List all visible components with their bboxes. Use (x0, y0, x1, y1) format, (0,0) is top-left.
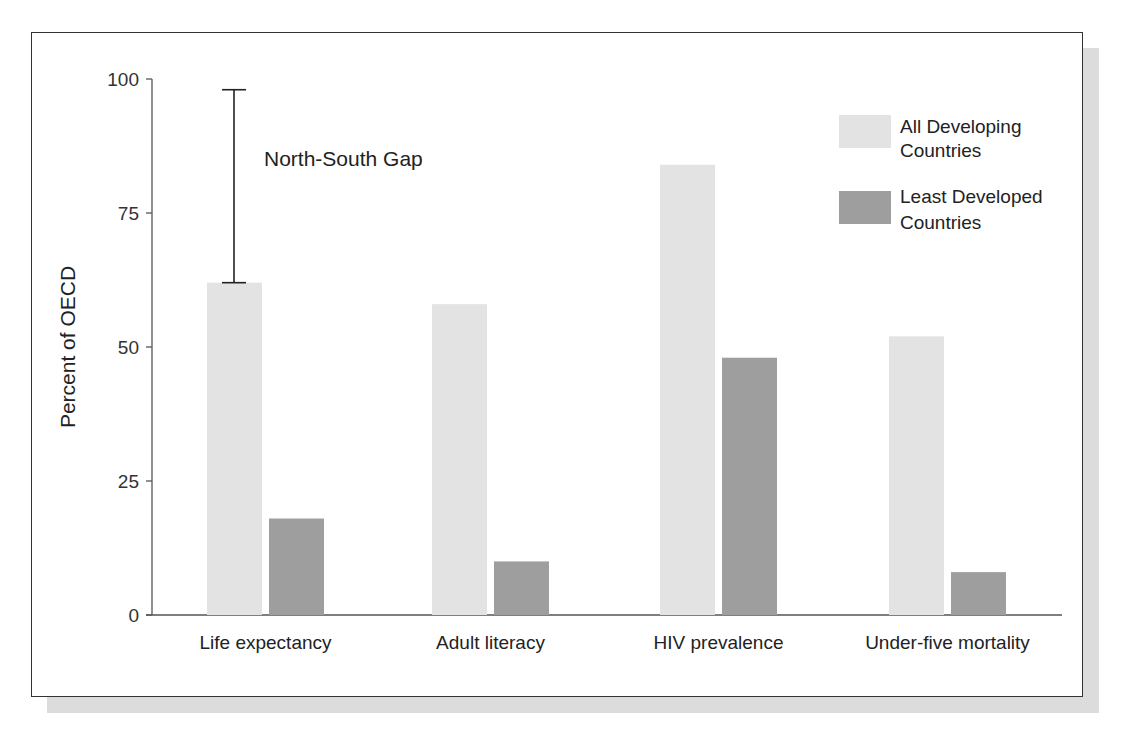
category-label: Under-five mortality (865, 632, 1030, 653)
legend-swatch-all-developing (839, 115, 891, 148)
y-axis-label: Percent of OECD (56, 266, 79, 428)
bar-least-developed (951, 572, 1006, 615)
bar-chart: 0255075100 Percent of OECD Life expectan… (0, 0, 1126, 738)
category-label: Life expectancy (199, 632, 332, 653)
bar-all-developing (207, 283, 262, 615)
legend-label-least-line1: Least Developed (900, 186, 1043, 207)
y-tick-label: 100 (107, 69, 139, 90)
y-tick-label: 75 (118, 203, 139, 224)
bar-all-developing (889, 336, 944, 615)
y-tick-label: 50 (118, 337, 139, 358)
north-south-gap-label: North-South Gap (264, 147, 423, 170)
y-tick-label: 25 (118, 471, 139, 492)
north-south-gap-annotation (222, 90, 246, 283)
bar-all-developing (432, 304, 487, 615)
bar-least-developed (722, 358, 777, 615)
y-tick-label: 0 (128, 605, 139, 626)
bar-least-developed (269, 519, 324, 615)
legend-label-all-line2: Countries (900, 140, 981, 161)
category-labels: Life expectancyAdult literacyHIV prevale… (199, 632, 1030, 653)
category-label: HIV prevalence (654, 632, 784, 653)
bars (207, 165, 1006, 615)
y-ticks: 0255075100 (107, 69, 152, 626)
legend-label-least-line2: Countries (900, 212, 981, 233)
legend-swatch-least-developed (839, 191, 891, 224)
legend-label-all-line1: All Developing (900, 116, 1021, 137)
bar-least-developed (494, 561, 549, 615)
legend: All Developing Countries Least Developed… (839, 115, 1043, 233)
category-label: Adult literacy (436, 632, 545, 653)
bar-all-developing (660, 165, 715, 615)
